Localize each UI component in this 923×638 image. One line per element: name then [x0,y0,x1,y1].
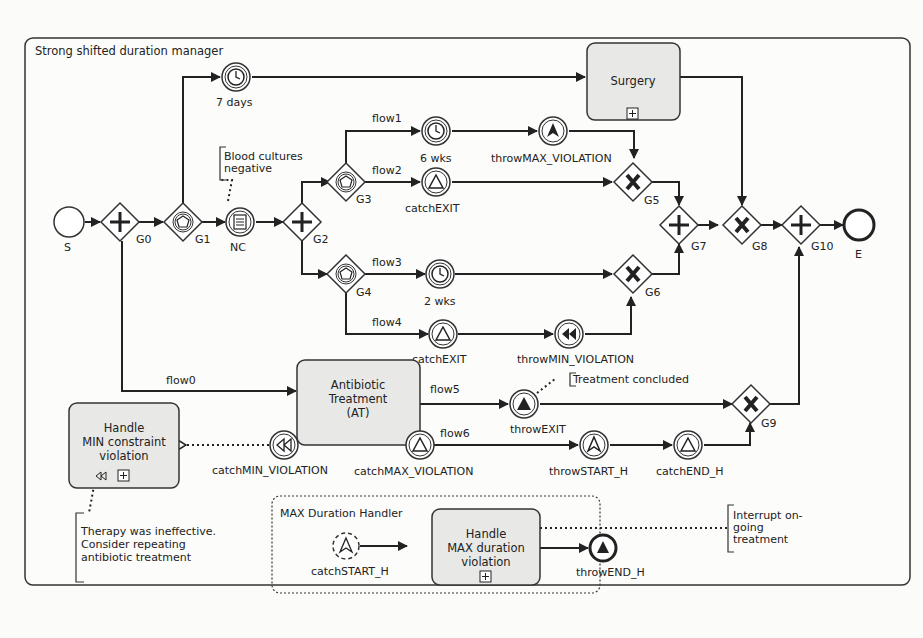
antibiotic-line-1: Antibiotic [331,378,385,392]
svg-text:treatment: treatment [733,533,789,546]
flow0-label: flow0 [166,374,196,387]
timer-event-7-days[interactable] [222,63,250,91]
start-event-label: S [64,241,71,254]
handle-max-line-1: Handle [466,527,507,541]
gateway-g7-label: G7 [691,240,707,253]
flow2-label: flow2 [372,164,402,177]
gateway-g5-label: G5 [644,194,660,207]
handle-min-line-2: MIN constraint [82,435,166,449]
svg-text:negative: negative [224,162,272,175]
catch-min-violation-label: catchMIN_VIOLATION [212,464,328,477]
timer-event-6-wks[interactable] [422,117,450,145]
catch-exit-2-label: catchEXIT [412,353,467,366]
annotation-treatment-concluded: Treatment concluded [570,373,689,386]
surgery-label: Surgery [610,74,655,88]
throw-start-h-event[interactable] [580,431,608,459]
gateway-g10-label: G10 [811,240,834,253]
subprocess-title: MAX Duration Handler [280,507,403,520]
bpmn-diagram: Strong shifted duration manager MAX Dura… [0,0,923,638]
start-event[interactable] [54,207,84,237]
antibiotic-line-2: Treatment [328,392,388,406]
gateway-g3-label: G3 [356,193,372,206]
end-event[interactable] [844,210,874,240]
pool-frame [25,38,910,585]
catch-start-h-label: catchSTART_H [311,565,389,578]
gateway-g4-label: G4 [356,286,372,299]
gateway-g8-label: G8 [752,240,768,253]
throw-min-violation-label: throwMIN_VIOLATION [517,353,634,366]
gateway-g6-label: G6 [645,286,661,299]
antibiotic-line-3: (AT) [347,406,370,420]
end-event-label: E [855,248,862,261]
handle-max-line-3: violation [461,555,510,569]
throw-exit-label: throwEXIT [510,423,566,436]
handle-min-line-1: Handle [104,421,145,435]
flow1-label: flow1 [372,112,402,125]
svg-text:Therapy was ineffective.: Therapy was ineffective. [80,525,216,538]
handle-max-line-2: MAX duration [447,541,525,555]
catch-exit-event-1[interactable] [422,168,450,196]
handle-min-line-3: violation [99,449,148,463]
throw-exit-event[interactable] [510,390,538,418]
flow5-label: flow5 [430,383,460,396]
timer-6-wks-label: 6 wks [420,152,452,165]
gateway-g9-label: G9 [761,417,777,430]
throw-start-h-label: throwSTART_H [549,465,628,478]
catch-exit-1-label: catchEXIT [405,202,460,215]
catch-end-h-event[interactable] [674,431,702,459]
svg-text:Treatment concluded: Treatment concluded [572,373,689,386]
nc-label: NC [230,241,246,254]
gateway-g1-label: G1 [195,233,211,246]
timer-2-wks-label: 2 wks [424,295,456,308]
svg-text:antibiotic treatment: antibiotic treatment [81,551,192,564]
flow4-label: flow4 [372,316,402,329]
svg-text:Consider repeating: Consider repeating [81,538,186,551]
pool-title: Strong shifted duration manager [35,44,223,58]
throw-end-h-end-event[interactable] [590,535,616,561]
timer-event-2-wks[interactable] [426,260,454,288]
throw-min-violation-event[interactable] [555,320,583,348]
gateway-g2-label: G2 [313,233,329,246]
timer-7-days-label: 7 days [216,96,253,109]
throw-max-violation-label: throwMAX_VIOLATION [491,152,612,165]
conditional-event-nc[interactable] [226,208,254,236]
catch-start-h-start-event[interactable] [333,533,359,559]
gateway-g0-label: G0 [136,233,152,246]
flow6-label: flow6 [440,427,470,440]
throw-end-h-label: throwEND_H [576,566,645,579]
catch-end-h-label: catchEND_H [656,465,724,478]
catch-min-violation-boundary-event[interactable] [270,431,298,459]
throw-max-violation-event[interactable] [539,117,567,145]
catch-max-violation-label: catchMAX_VIOLATION [354,465,474,478]
flow3-label: flow3 [372,256,402,269]
catch-exit-event-2[interactable] [429,320,457,348]
catch-max-violation-boundary-event[interactable] [406,431,434,459]
